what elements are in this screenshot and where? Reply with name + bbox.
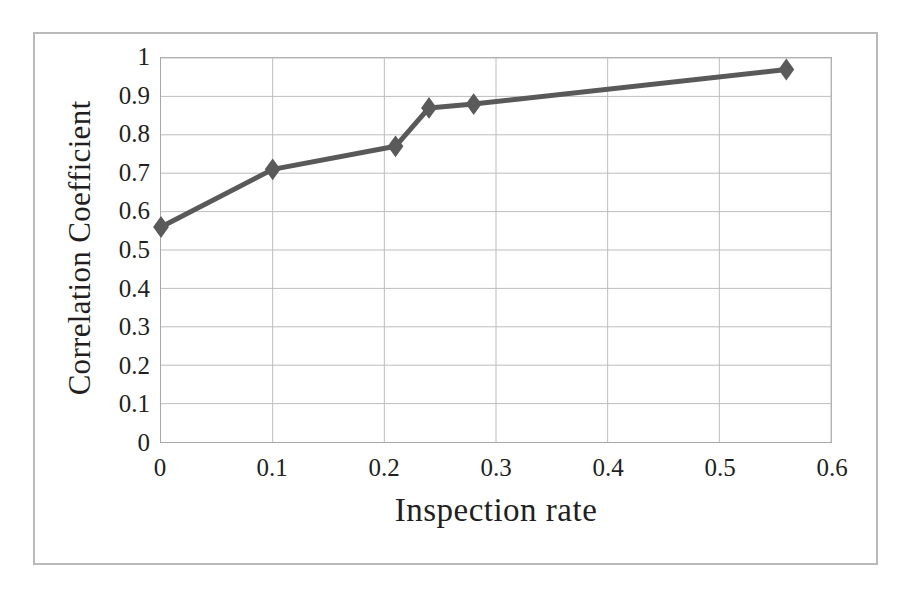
y-axis-tick-labels: 00.10.20.30.40.50.60.70.80.91 — [92, 57, 150, 443]
y-tick-label: 0.8 — [119, 121, 150, 146]
data-point-marker — [778, 59, 794, 81]
x-tick-label: 0.1 — [256, 455, 287, 480]
y-tick-label: 0.2 — [119, 353, 150, 378]
x-tick-label: 0.3 — [480, 455, 511, 480]
x-tick-label: 0 — [154, 455, 167, 480]
x-axis-title: Inspection rate — [160, 492, 832, 529]
x-tick-label: 0.5 — [704, 455, 735, 480]
y-tick-label: 0.5 — [119, 237, 150, 262]
y-tick-label: 0.6 — [119, 198, 150, 223]
x-tick-label: 0.6 — [816, 455, 847, 480]
y-tick-label: 0.9 — [119, 83, 150, 108]
y-axis-title: Correlation Coefficient — [62, 48, 98, 448]
y-tick-label: 0 — [138, 430, 151, 455]
line-chart: 00.10.20.30.40.50.60.70.80.91 00.10.20.3… — [0, 0, 910, 595]
x-tick-label: 0.4 — [592, 455, 623, 480]
x-axis-tick-labels: 00.10.20.30.40.50.6 — [160, 455, 832, 489]
y-tick-label: 1 — [138, 44, 151, 69]
y-tick-label: 0.1 — [119, 391, 150, 416]
plot-area — [160, 57, 832, 443]
data-point-marker — [466, 93, 482, 115]
y-tick-label: 0.4 — [119, 276, 150, 301]
data-series — [161, 58, 831, 442]
data-point-marker — [265, 158, 281, 180]
series-line — [161, 70, 786, 227]
data-point-marker — [153, 216, 169, 238]
y-tick-label: 0.7 — [119, 160, 150, 185]
y-tick-label: 0.3 — [119, 314, 150, 339]
x-tick-label: 0.2 — [368, 455, 399, 480]
